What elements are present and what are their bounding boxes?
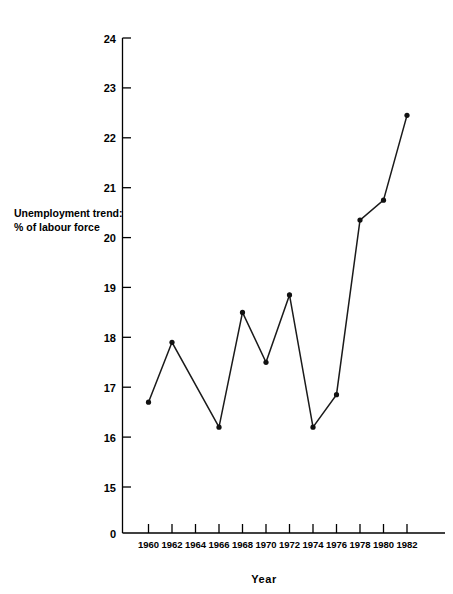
data-point	[310, 425, 315, 430]
y-tick-24: 24	[104, 33, 117, 45]
data-point	[404, 113, 409, 118]
x-tick-1980: 1980	[373, 539, 394, 550]
data-point	[263, 360, 268, 365]
y-tick-17: 17	[104, 382, 116, 394]
x-axis-title: Year	[251, 573, 277, 585]
data-point	[169, 340, 174, 345]
y-tick-zero: 0	[110, 528, 116, 540]
unemployment-trend-chart: Unemployment trend: % of labour force 24…	[0, 0, 453, 594]
x-tick-1974: 1974	[302, 539, 324, 550]
x-tick-1978: 1978	[349, 539, 370, 550]
y-tick-22: 22	[104, 132, 116, 144]
y-axis-title-line1: Unemployment trend:	[14, 207, 123, 219]
y-tick-19: 19	[104, 282, 116, 294]
chart-canvas: Unemployment trend: % of labour force 24…	[0, 0, 453, 594]
x-tick-1972: 1972	[279, 539, 300, 550]
x-tick-1968: 1968	[232, 539, 253, 550]
y-tick-21: 21	[104, 182, 116, 194]
x-tick-1966: 1966	[208, 539, 229, 550]
data-point	[357, 218, 362, 223]
x-tick-1962: 1962	[161, 539, 182, 550]
x-tick-1982: 1982	[396, 539, 417, 550]
data-point	[240, 310, 245, 315]
data-point	[216, 425, 221, 430]
x-tick-1970: 1970	[255, 539, 276, 550]
x-tick-1964: 1964	[185, 539, 207, 550]
data-point	[381, 198, 386, 203]
y-axis-title-line2: % of labour force	[14, 221, 100, 233]
y-tick-15: 15	[104, 482, 116, 494]
y-tick-18: 18	[104, 332, 116, 344]
chart-background	[0, 0, 453, 594]
data-point	[334, 392, 339, 397]
x-tick-1976: 1976	[326, 539, 347, 550]
y-tick-23: 23	[104, 82, 116, 94]
data-point	[146, 400, 151, 405]
y-tick-16: 16	[104, 432, 116, 444]
y-tick-20: 20	[104, 232, 116, 244]
x-tick-1960: 1960	[138, 539, 159, 550]
data-point	[287, 292, 292, 297]
